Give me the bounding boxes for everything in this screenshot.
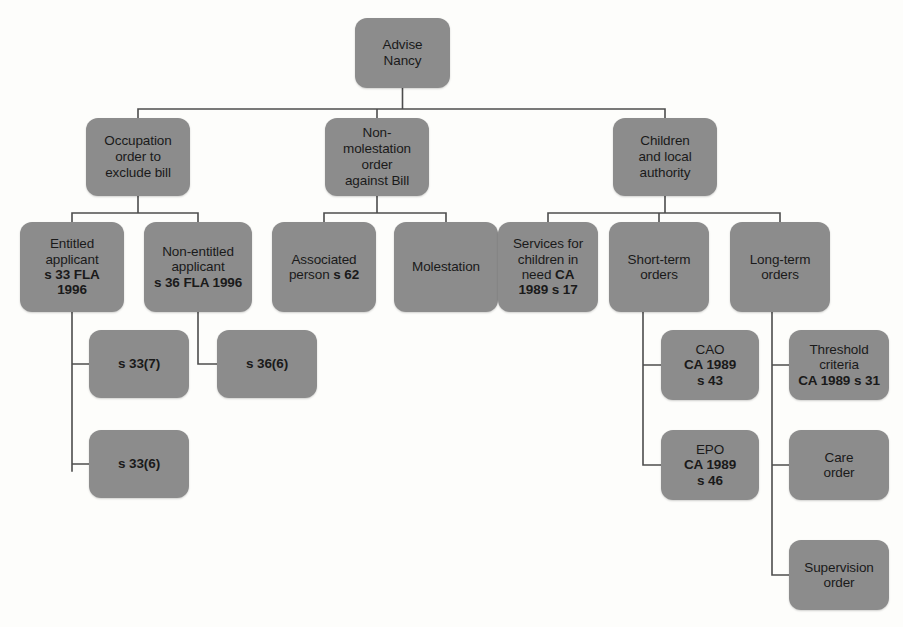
connector-occupation-to-applicants <box>72 196 198 222</box>
connector-nonmolestation-to-children <box>324 196 446 222</box>
connector-layer <box>0 0 903 627</box>
node-epo[interactable]: EPOCA 1989s 46 <box>661 430 759 500</box>
node-non-molestation-order[interactable]: Non-molestationorderagainst Bill <box>325 118 429 196</box>
node-molestation[interactable]: Molestation <box>394 222 498 312</box>
node-threshold-criteria-label: ThresholdcriteriaCA 1989 s 31 <box>794 342 884 388</box>
node-services-for-children-in-need[interactable]: Services forchildren inneed CA1989 s 17 <box>498 222 598 312</box>
node-non-molestation-order-label: Non-molestationorderagainst Bill <box>330 125 424 189</box>
node-entitled-applicant[interactable]: Entitledapplicants 33 FLA1996 <box>20 222 124 312</box>
node-s-36-6-label: s 36(6) <box>222 356 312 371</box>
node-care-order-label: Careorder <box>794 450 884 481</box>
connector-children-to-services <box>548 196 780 222</box>
node-advise-nancy[interactable]: AdviseNancy <box>355 18 450 88</box>
node-services-for-children-in-need-label: Services forchildren inneed CA1989 s 17 <box>503 236 593 298</box>
node-non-entitled-applicant[interactable]: Non-entitledapplicants 36 FLA 1996 <box>144 222 252 312</box>
node-associated-person[interactable]: Associatedperson s 62 <box>272 222 376 312</box>
node-s-33-7[interactable]: s 33(7) <box>89 330 189 398</box>
node-short-term-orders[interactable]: Short-termorders <box>609 222 709 312</box>
node-entitled-applicant-label: Entitledapplicants 33 FLA1996 <box>25 236 119 298</box>
node-long-term-orders[interactable]: Long-termorders <box>730 222 830 312</box>
node-s-33-7-label: s 33(7) <box>94 356 184 371</box>
node-children-and-local-authority-label: Childrenand localauthority <box>618 133 712 181</box>
connector-entitled-to-subsections <box>72 312 89 471</box>
node-molestation-label: Molestation <box>399 259 493 274</box>
node-associated-person-label: Associatedperson s 62 <box>277 252 371 283</box>
node-short-term-orders-label: Short-termorders <box>614 252 704 283</box>
node-s-36-6[interactable]: s 36(6) <box>217 330 317 398</box>
node-children-and-local-authority[interactable]: Childrenand localauthority <box>613 118 717 196</box>
node-occupation-order[interactable]: Occupationorder toexclude bill <box>86 118 190 196</box>
connector-shortterm-to-orders <box>643 312 661 465</box>
node-cao[interactable]: CAOCA 1989s 43 <box>661 330 759 400</box>
flowchart-canvas: AdviseNancyOccupationorder toexclude bil… <box>0 0 903 627</box>
node-threshold-criteria[interactable]: ThresholdcriteriaCA 1989 s 31 <box>789 330 889 400</box>
connector-root-to-level1 <box>138 88 665 118</box>
node-s-33-6-label: s 33(6) <box>94 456 184 471</box>
connector-longterm-to-orders <box>772 312 789 575</box>
node-epo-label: EPOCA 1989s 46 <box>666 442 754 488</box>
node-supervision-order[interactable]: Supervisionorder <box>789 540 889 610</box>
node-s-33-6[interactable]: s 33(6) <box>89 430 189 498</box>
node-occupation-order-label: Occupationorder toexclude bill <box>91 133 185 181</box>
node-non-entitled-applicant-label: Non-entitledapplicants 36 FLA 1996 <box>149 244 247 290</box>
connector-nonentitled-to-s36 <box>198 312 217 364</box>
node-long-term-orders-label: Long-termorders <box>735 252 825 283</box>
node-supervision-order-label: Supervisionorder <box>794 560 884 591</box>
node-advise-nancy-label: AdviseNancy <box>360 37 445 69</box>
node-cao-label: CAOCA 1989s 43 <box>666 342 754 388</box>
node-care-order[interactable]: Careorder <box>789 430 889 500</box>
